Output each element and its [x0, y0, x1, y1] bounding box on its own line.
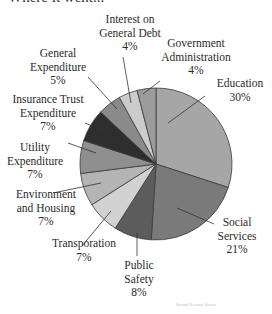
slice-percent: 4%: [122, 40, 138, 52]
slice-name: Transporation: [52, 237, 116, 250]
slice-percent: 5%: [50, 74, 66, 86]
slice-percent: 30%: [229, 91, 251, 103]
slice-label: GovernmentAdministration4%: [161, 37, 231, 76]
slice-name: Education: [217, 77, 264, 89]
slice-name: Interest on: [106, 13, 155, 25]
slice-percent: 7%: [38, 215, 54, 227]
slice-label: SocialServices21%: [218, 216, 257, 255]
slice-percent: 21%: [226, 243, 248, 255]
slice-label: UtilityExpenditure7%: [7, 141, 63, 180]
slice-label: Insurance TrustExpenditure7%: [12, 93, 84, 132]
leader-line: [88, 77, 117, 109]
slice-name: and Housing: [17, 202, 76, 215]
slice-name: Utility: [20, 141, 50, 154]
slice-percent: 7%: [27, 168, 43, 180]
slice-name: Public: [124, 259, 153, 271]
slice-percent: 8%: [131, 286, 147, 298]
slice-name: Administration: [161, 51, 231, 63]
slice-name: Expenditure: [20, 107, 76, 120]
slice-label: Transporation7%: [52, 237, 116, 263]
slice-label: Environmentand Housing7%: [16, 188, 77, 227]
slice-name: General: [40, 47, 76, 59]
slice-name: Expenditure: [30, 61, 86, 74]
slice-name: General Debt: [99, 27, 161, 39]
slice-name: Government: [167, 37, 225, 49]
slice-label: Education30%: [217, 77, 264, 103]
source-note: Internal Revenue Service: [176, 302, 216, 307]
slice-label: GeneralExpenditure5%: [30, 47, 86, 86]
slice-name: Expenditure: [7, 155, 63, 168]
slice-percent: 7%: [40, 120, 56, 132]
slice-percent: 7%: [76, 251, 92, 263]
slice-label: Interest onGeneral Debt4%: [99, 13, 161, 52]
slice-name: Environment: [16, 188, 77, 200]
slice-percent: 4%: [188, 64, 204, 76]
slice-name: Social: [223, 216, 252, 228]
slice-name: Services: [218, 230, 257, 242]
slice-label: PublicSafety8%: [124, 259, 154, 298]
pie-chart: Education30%SocialServices21%PublicSafet…: [0, 0, 272, 314]
slice-name: Insurance Trust: [12, 93, 84, 105]
slice-name: Safety: [124, 273, 154, 286]
